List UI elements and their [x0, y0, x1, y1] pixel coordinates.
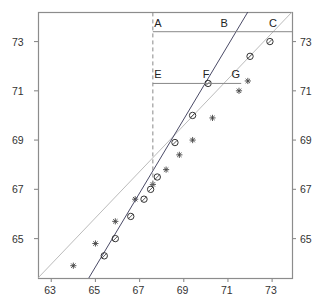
- x-tick-label-67: 67: [133, 285, 145, 296]
- plot-border: [39, 13, 293, 279]
- sample-line-circles-point-3-slash: [142, 197, 147, 202]
- x-tick-label-69: 69: [177, 285, 189, 296]
- annotation-label-f: F: [203, 69, 210, 80]
- y-tick-label-right-71: 71: [300, 86, 312, 97]
- reference-line-stars-point-2: [112, 218, 118, 224]
- sample-line-circles-point-5-slash: [155, 175, 160, 180]
- y-tick-label-right-69: 69: [300, 135, 312, 146]
- annotation-label-b: B: [221, 18, 228, 29]
- reference-line-stars-point-9: [236, 88, 242, 94]
- reference-line-stars-point-1: [92, 240, 98, 246]
- sample-line-circles-line: [89, 12, 248, 278]
- x-tick-label-71: 71: [221, 285, 233, 296]
- reference-line-stars-point-10: [245, 78, 251, 84]
- chart-canvas: [0, 0, 324, 308]
- y-tick-label-right-73: 73: [300, 37, 312, 48]
- sample-line-circles-point-9-slash: [248, 54, 253, 59]
- x-tick-label-65: 65: [88, 285, 100, 296]
- y-tick-label-left-73: 73: [12, 37, 24, 48]
- series-group: [38, 12, 292, 278]
- annotation-label-a: A: [154, 18, 161, 29]
- y-tick-label-left-67: 67: [12, 184, 24, 195]
- annotation-label-c: C: [269, 18, 277, 29]
- sample-line-circles-point-6-slash: [173, 140, 178, 145]
- sample-line-circles-point-7-slash: [190, 113, 195, 118]
- chart-figure: 63656769717365676971736567697173ABCEFG: [0, 0, 324, 308]
- y-tick-label-left-65: 65: [12, 234, 24, 245]
- sample-line-circles-point-4-slash: [148, 187, 153, 192]
- y-tick-label-right-67: 67: [300, 184, 312, 195]
- reference-line-stars-point-5: [163, 167, 169, 173]
- x-tick-label-63: 63: [44, 285, 56, 296]
- y-tick-label-right-65: 65: [300, 234, 312, 245]
- reference-line-stars-point-8: [209, 115, 215, 121]
- y-tick-label-left-71: 71: [12, 86, 24, 97]
- reference-line-stars-point-0: [70, 263, 76, 269]
- sample-line-circles-point-2-slash: [128, 214, 133, 219]
- x-tick-label-73: 73: [265, 285, 277, 296]
- y-tick-label-left-69: 69: [12, 135, 24, 146]
- reference-line-stars-point-7: [190, 137, 196, 143]
- annotation-label-g: G: [232, 69, 241, 80]
- reference-line-stars-point-6: [176, 152, 182, 158]
- sample-line-circles-point-10-slash: [268, 39, 273, 44]
- annotation-label-e: E: [154, 69, 161, 80]
- reference-line-stars-line: [38, 12, 292, 278]
